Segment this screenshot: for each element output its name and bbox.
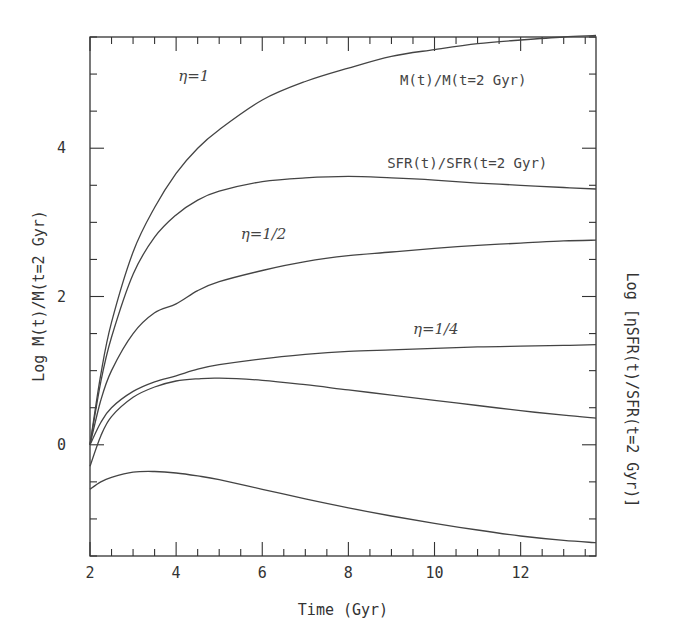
series-line xyxy=(90,345,596,445)
y-tick-label: 0 xyxy=(57,436,66,454)
y-tick-label: 4 xyxy=(57,139,66,157)
axis-tick-labels: 24681012024 xyxy=(57,139,530,582)
plot-area-border xyxy=(90,37,596,556)
series-line xyxy=(90,471,596,542)
y-axis-label: Log M(t)/M(t=2 Gyr) xyxy=(30,210,48,382)
x-tick-label: 4 xyxy=(172,564,181,582)
x-tick-label: 2 xyxy=(85,564,94,582)
plot-frame xyxy=(90,37,596,556)
curve-annotation: SFR(t)/SFR(t=2 Gyr) xyxy=(387,155,547,171)
series-line xyxy=(90,240,596,445)
curve-annotation: η=1/4 xyxy=(413,320,459,338)
axis-ticks xyxy=(90,37,596,556)
x-tick-label: 12 xyxy=(512,564,530,582)
x-tick-label: 6 xyxy=(258,564,267,582)
x-tick-label: 10 xyxy=(425,564,443,582)
curve-annotation: η=1 xyxy=(178,67,209,85)
series-line xyxy=(90,176,596,444)
x-axis-label: Time (Gyr) xyxy=(298,601,388,619)
curve-annotation: M(t)/M(t=2 Gyr) xyxy=(400,72,526,88)
annotations: η=1M(t)/M(t=2 Gyr)SFR(t)/SFR(t=2 Gyr)η=1… xyxy=(178,67,547,337)
line-chart: 24681012024 η=1M(t)/M(t=2 Gyr)SFR(t)/SFR… xyxy=(0,0,673,642)
x-tick-label: 8 xyxy=(344,564,353,582)
data-series xyxy=(90,36,596,543)
right-y-axis-label: Log [ηSFR(t)/SFR(t=2 Gyr)] xyxy=(623,273,641,508)
series-line xyxy=(90,378,596,466)
curve-annotation: η=1/2 xyxy=(241,225,287,243)
y-tick-label: 2 xyxy=(57,288,66,306)
